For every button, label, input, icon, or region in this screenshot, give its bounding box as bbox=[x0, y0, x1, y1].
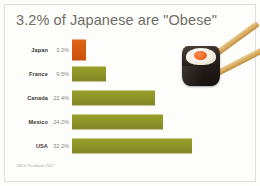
slide-canvas: 3.2% of Japanese are "Obese" Japan3.2%Fr… bbox=[0, 0, 260, 186]
bar-france bbox=[72, 67, 106, 82]
bar-category-label: USA bbox=[10, 143, 48, 149]
bar-value-label: 24.2% bbox=[50, 119, 69, 125]
bar-canada bbox=[72, 91, 155, 106]
bar-category-label: Canada bbox=[10, 95, 48, 101]
bar-usa bbox=[72, 139, 192, 154]
bar-category-label: Japan bbox=[10, 47, 48, 53]
chart-row: USA32.2% bbox=[0, 134, 260, 158]
sushi-photo bbox=[176, 28, 256, 104]
sushi-roll-icon bbox=[182, 46, 220, 86]
bar-value-label: 9.5% bbox=[50, 71, 69, 77]
nori-sheen bbox=[182, 66, 220, 86]
bar-value-label: 3.2% bbox=[50, 47, 69, 53]
bar-category-label: Mexico bbox=[10, 119, 48, 125]
bar-value-label: 22.4% bbox=[50, 95, 69, 101]
bar-value-label: 32.2% bbox=[50, 143, 69, 149]
bar-japan bbox=[72, 40, 86, 61]
bar-category-label: France bbox=[10, 71, 48, 77]
chart-row: Mexico24.2% bbox=[0, 110, 260, 134]
source-caption: OECD Factbook 2007 bbox=[16, 164, 54, 168]
sushi-salmon-filling bbox=[194, 51, 207, 60]
bar-mexico bbox=[72, 115, 163, 130]
page-title: 3.2% of Japanese are "Obese" bbox=[16, 12, 217, 28]
